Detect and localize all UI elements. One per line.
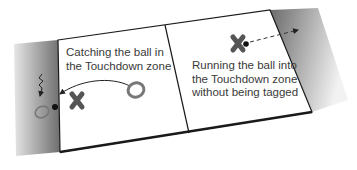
left-ball-dot: [52, 104, 58, 110]
right-ball-dot: [243, 41, 249, 47]
right-zone-caption: Running the ball into the Touchdown zone…: [192, 59, 298, 100]
touchdown-diagram: Catching the ball in the Touchdown zone …: [0, 0, 357, 170]
field-drawing: [0, 0, 357, 170]
left-endzone: [14, 40, 60, 156]
left-zone-caption: Catching the ball in the Touchdown zone: [66, 46, 171, 73]
